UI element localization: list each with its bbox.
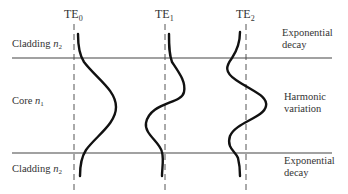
top-annotation-line2: decay xyxy=(282,39,307,50)
te0-field-curve xyxy=(78,34,116,176)
top-annotation-line1: Exponential xyxy=(282,27,333,38)
mode-label-te1: TE1 xyxy=(155,7,174,23)
bottom-annotation-line2: decay xyxy=(284,167,309,178)
bottom-cladding-label: Cladding n2 xyxy=(12,163,62,176)
core-label: Core n1 xyxy=(12,95,44,108)
te-modes-diagram: TE0 TE1 TE2 Cladding n2 Core n1 Cladding… xyxy=(0,0,348,194)
middle-annotation-line1: Harmonic xyxy=(284,91,326,102)
top-cladding-label: Cladding n2 xyxy=(12,38,62,51)
mode-label-te0: TE0 xyxy=(64,7,83,23)
te2-field-curve xyxy=(227,32,266,176)
bottom-annotation-line1: Exponential xyxy=(284,155,335,166)
mode-label-te2: TE2 xyxy=(236,7,255,23)
middle-annotation-line2: variation xyxy=(284,103,322,114)
